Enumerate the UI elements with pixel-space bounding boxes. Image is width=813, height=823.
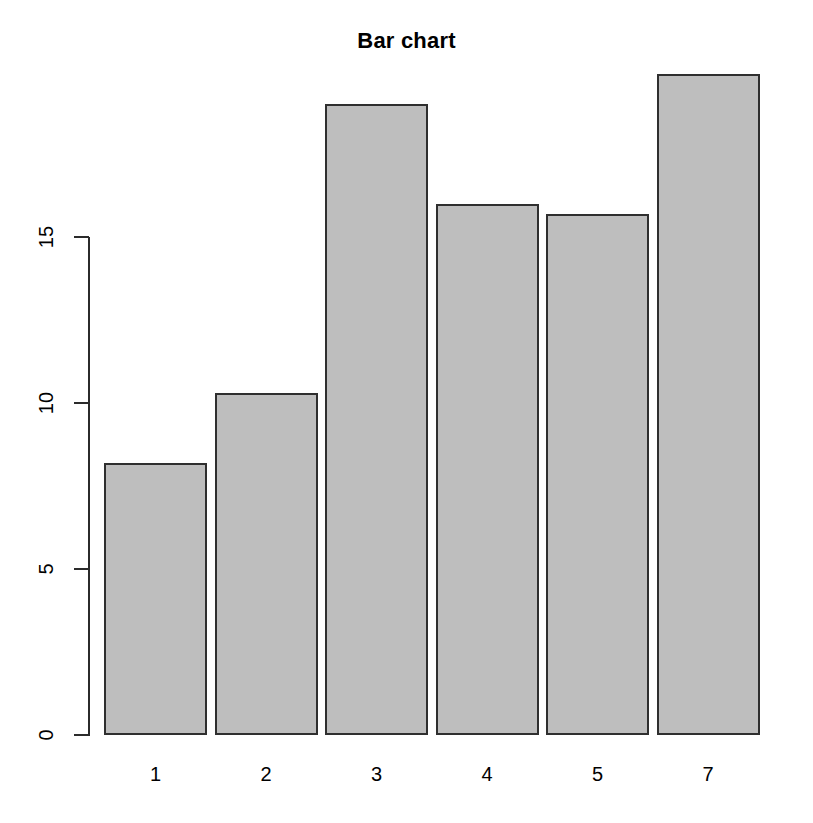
x-axis-label-3: 3 <box>325 762 428 786</box>
x-axis-label-4: 4 <box>436 762 539 786</box>
x-axis-label-2: 2 <box>215 762 318 786</box>
bar-1[interactable] <box>104 463 207 735</box>
y-axis-tick-15 <box>74 236 89 238</box>
x-axis-label-1: 1 <box>104 762 207 786</box>
y-axis-line <box>88 237 90 736</box>
y-axis-tick-10 <box>74 402 89 404</box>
y-axis-label-0: 0 <box>35 715 57 755</box>
y-axis-label-5: 5 <box>35 549 57 589</box>
x-axis-label-5: 5 <box>546 762 649 786</box>
bar-3[interactable] <box>325 104 428 735</box>
x-axis-label-7: 7 <box>657 762 760 786</box>
bar-chart-plot: Bar chart 051015 123457 <box>0 0 813 823</box>
y-axis-tick-5 <box>74 568 89 570</box>
y-axis-label-15: 15 <box>35 217 57 257</box>
y-axis-label-10: 10 <box>35 383 57 423</box>
bar-7[interactable] <box>657 74 760 735</box>
bar-4[interactable] <box>436 204 539 735</box>
bar-2[interactable] <box>215 393 318 735</box>
chart-title: Bar chart <box>0 28 813 54</box>
bar-5[interactable] <box>546 214 649 735</box>
y-axis-tick-0 <box>74 734 89 736</box>
